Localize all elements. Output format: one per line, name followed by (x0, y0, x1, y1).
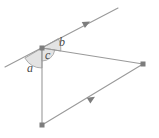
vertex-bottom (40, 123, 45, 128)
vertex-group (40, 46, 146, 128)
geometry-figure: a b c (0, 0, 159, 138)
vertex-apex (40, 46, 45, 51)
triangle-right-side (42, 48, 143, 64)
line-group (5, 8, 143, 125)
parallel-marker-group (82, 18, 97, 103)
angle-label-c: c (45, 49, 50, 61)
angle-label-a: a (27, 62, 33, 74)
angle-label-b: b (59, 36, 65, 48)
triangle-bottom-side (42, 64, 143, 125)
vertex-right (141, 62, 146, 67)
geometry-diagram-svg (0, 0, 159, 138)
